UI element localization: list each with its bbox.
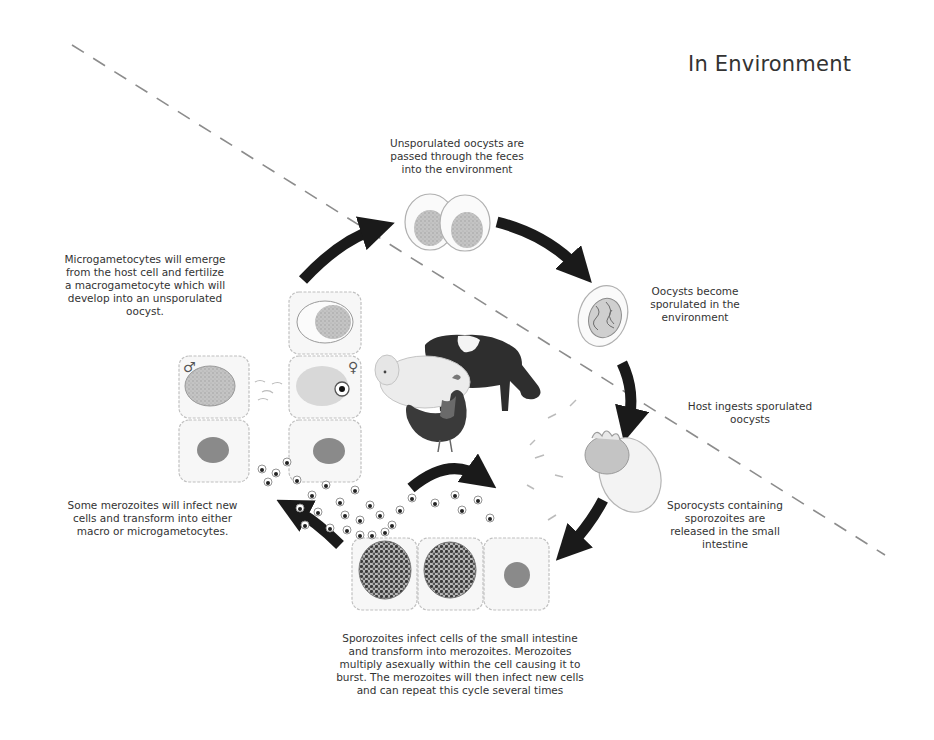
- label-unsporulated-oocysts: Unsporulated oocysts are passed through …: [352, 137, 562, 176]
- label-sporocysts-released: Sporocysts containing sporozoites are re…: [650, 499, 800, 551]
- host-animals-icon: [375, 335, 541, 452]
- gametocyte-contents: [185, 301, 353, 464]
- sporulated-oocyst-icon: [571, 279, 636, 353]
- coccidia-life-cycle-diagram: ♂ ♀ In Environment Unsporulated oocysts …: [0, 0, 934, 740]
- label-host-ingests: Host ingests sporulated oocysts: [670, 400, 830, 426]
- diagram-artwork: ♂ ♀: [0, 0, 934, 740]
- male-symbol-icon: ♂: [183, 359, 196, 375]
- label-sporozoites-infect: Sporozoites infect cells of the small in…: [300, 632, 620, 697]
- environment-title: In Environment: [688, 52, 851, 76]
- label-merozoites-transform: Some merozoites will infect new cells an…: [40, 499, 265, 538]
- label-sporulated-oocysts: Oocysts become sporulated in the environ…: [640, 285, 750, 324]
- label-microgametocytes-emerge: Microgametocytes will emerge from the ho…: [45, 253, 245, 318]
- unsporulated-oocyst-icon: [405, 194, 490, 251]
- female-symbol-icon: ♀: [348, 359, 358, 375]
